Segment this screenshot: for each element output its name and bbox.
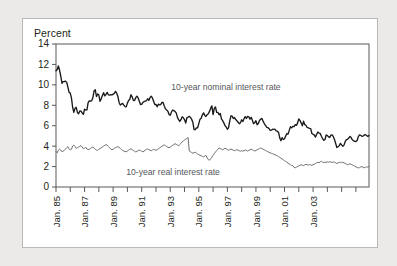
y-tick-label: 8 [43,100,49,111]
x-tick-label: Jan. 91 [136,196,147,227]
annotation-nominal-label: 10-year nominal interest rate [171,82,281,92]
figure-root: Percent 02468101214Jan. 85Jan. 87Jan. 89… [0,0,397,266]
plot-area-wrapper: 02468101214Jan. 85Jan. 87Jan. 89Jan. 91J… [23,19,379,249]
x-tick-label: Jan. 89 [108,196,119,227]
y-tick-label: 4 [43,141,49,152]
x-tick-label: Jan. 93 [165,196,176,227]
chart-card: Percent 02468101214Jan. 85Jan. 87Jan. 89… [22,18,378,248]
x-tick-label: Jan. 01 [279,196,290,227]
series-line-real [56,138,369,168]
x-tick-label: Jan. 95 [193,196,204,227]
x-tick-label: Jan. 87 [79,196,90,227]
line-chart: 02468101214Jan. 85Jan. 87Jan. 89Jan. 91J… [23,19,379,249]
x-tick-label: Jan. 97 [222,196,233,227]
x-tick-label: Jan. 85 [51,196,62,227]
y-tick-label: 6 [43,120,49,131]
y-tick-label: 10 [38,79,50,90]
x-tick-label: Jan. 03 [308,196,319,227]
y-tick-label: 0 [43,181,49,192]
y-tick-label: 14 [38,38,50,49]
y-tick-label: 2 [43,161,49,172]
plot-frame [56,44,369,187]
y-tick-label: 12 [38,59,50,70]
series-line-nominal [56,66,369,148]
x-tick-label: Jan. 99 [251,196,262,227]
annotation-real-label: 10-year real interest rate [126,167,220,177]
